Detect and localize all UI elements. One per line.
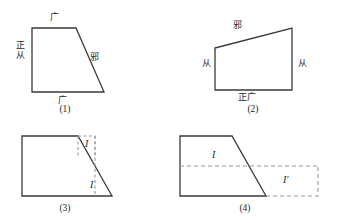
- figure-4: I I′ (4): [170, 118, 340, 223]
- trapezoid-outline: [215, 28, 292, 90]
- dashed-right-rect: [266, 166, 318, 196]
- figure-1-caption: (1): [45, 104, 85, 114]
- figure-3: I I (3): [0, 118, 170, 223]
- figure-4-outer-label: I′: [283, 175, 289, 185]
- figure-2: 邪 从 从 正广 (2): [170, 0, 340, 118]
- figure-2-bottom-label: 正广: [238, 92, 256, 102]
- figure-1-left-label: 正从: [15, 40, 25, 60]
- figure-3-lower-label: I: [90, 180, 93, 190]
- figure-3-caption: (3): [45, 203, 85, 213]
- figure-3-upper-label: I: [85, 139, 88, 149]
- figure-1-right-label: 邪: [90, 52, 99, 62]
- figure-2-top-label: 邪: [233, 20, 242, 30]
- figure-2-left-label: 从: [202, 58, 211, 68]
- figure-2-caption: (2): [233, 104, 273, 114]
- figure-2-right-label: 从: [298, 58, 307, 68]
- trapezoid-outline: [22, 136, 112, 196]
- figure-1-shape: [0, 0, 170, 118]
- figure-1-top-label: 广: [50, 12, 59, 22]
- figure-4-inner-label: I: [212, 150, 215, 160]
- figure-1: 广 正从 邪 广 (1): [0, 0, 170, 118]
- figure-3-shape: [0, 118, 170, 223]
- figure-4-caption: (4): [225, 203, 265, 213]
- diagram-canvas: 广 正从 邪 广 (1) 邪 从 从 正广 (2) I I (3): [0, 0, 340, 223]
